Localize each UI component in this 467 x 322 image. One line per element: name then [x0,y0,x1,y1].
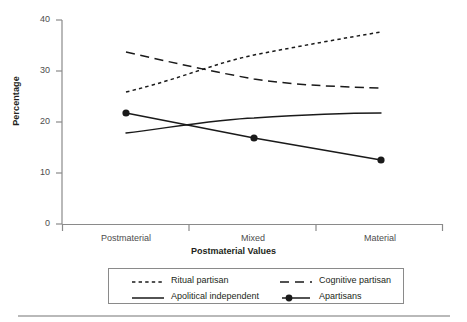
legend: Ritual partisan Cognitive partisan Apoli… [108,268,404,304]
data-point-marker [377,156,384,163]
y-axis-ticks [56,20,62,224]
y-tick-label-40: 40 [26,14,50,24]
y-axis-title: Percentage [11,61,21,141]
y-tick-label-10: 10 [26,167,50,177]
y-tick-label-0: 0 [26,218,50,228]
page-divider-rule [18,315,450,317]
y-tick-label-30: 30 [26,65,50,75]
x-tick-label-mixed: Mixed [208,233,298,243]
x-axis-title: Postmaterial Values [0,246,467,256]
legend-item-cognitive-partisan: Cognitive partisan [279,272,391,288]
legend-swatch-solid-marker [279,290,313,302]
legend-swatch-dotted [131,274,165,286]
legend-swatch-solid [131,290,165,302]
legend-swatch-dashed [279,274,313,286]
legend-item-apartisans: Apartisans [279,288,362,304]
legend-label-ritual-partisan: Ritual partisan [165,275,229,285]
x-tick-label-postmaterial: Postmaterial [81,233,171,243]
series-line-cognitive-partisan [126,52,381,88]
data-point-marker [250,134,257,141]
series-line-apolitical-independent [126,113,381,133]
figure: Percentage 40 30 20 10 0 Postmaterial Mi… [0,0,467,322]
legend-label-apolitical-independent: Apolitical independent [165,291,259,301]
series-line-ritual-partisan [126,32,381,92]
x-tick-label-material: Material [335,233,425,243]
legend-item-apolitical-independent: Apolitical independent [131,288,259,304]
legend-label-apartisans: Apartisans [313,291,362,301]
legend-label-cognitive-partisan: Cognitive partisan [313,275,391,285]
y-tick-label-20: 20 [26,116,50,126]
data-point-marker [122,109,129,116]
legend-item-ritual-partisan: Ritual partisan [131,272,229,288]
